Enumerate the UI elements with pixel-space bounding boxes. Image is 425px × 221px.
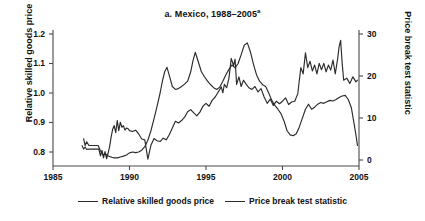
legend-line-swatch-series-1 xyxy=(78,201,98,202)
y-tick-label-right-10: 10 xyxy=(367,113,393,123)
x-tick-label-1995: 1995 xyxy=(186,172,226,182)
series-line-2 xyxy=(82,40,357,159)
y-tick-label-left-0.9: 0.9 xyxy=(19,117,45,127)
legend-label-series-2: Price break test statistic xyxy=(249,196,347,206)
y-tick-label-right-30: 30 xyxy=(367,29,393,39)
x-tick-label-1985: 1985 xyxy=(33,172,73,182)
series-lines xyxy=(82,40,357,159)
y-tick-label-left-1.1: 1.1 xyxy=(19,58,45,68)
x-tick-label-2000: 2000 xyxy=(263,172,303,182)
plot-area xyxy=(0,0,425,221)
chart-figure: a. Mexico, 1988–2005a Relative skilled g… xyxy=(0,0,425,221)
y-tick-label-left-0.8: 0.8 xyxy=(19,147,45,157)
x-tick-label-1990: 1990 xyxy=(110,172,150,182)
y-tick-label-right-20: 20 xyxy=(367,71,393,81)
x-tick-label-2005: 2005 xyxy=(339,172,379,182)
y-tick-label-right-0: 0 xyxy=(367,155,393,165)
legend-item-relative-skilled-goods-price: Relative skilled goods price xyxy=(78,196,214,206)
legend-label-series-1: Relative skilled goods price xyxy=(102,196,214,206)
y-tick-label-left-1.0: 1.0 xyxy=(19,88,45,98)
legend-item-price-break-test-statistic: Price break test statistic xyxy=(225,196,347,206)
axis-lines xyxy=(53,30,359,166)
y-tick-label-left-1.2: 1.2 xyxy=(19,29,45,39)
chart-legend: Relative skilled goods price Price break… xyxy=(0,196,425,206)
legend-line-swatch-series-2 xyxy=(225,201,245,202)
series-line-1 xyxy=(84,43,358,158)
